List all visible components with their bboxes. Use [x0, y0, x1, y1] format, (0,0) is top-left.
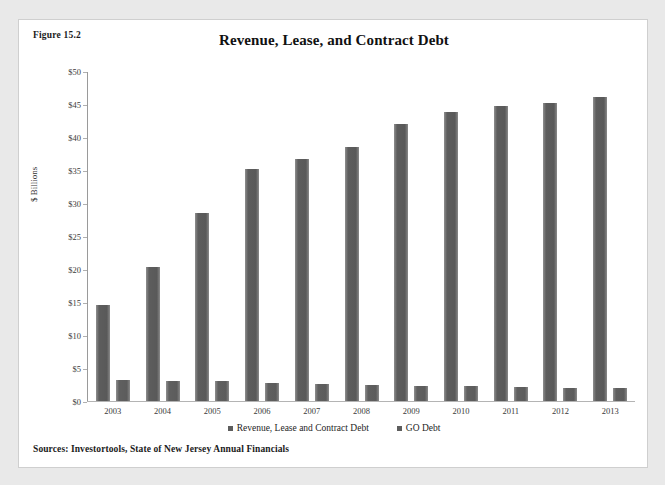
- bar-group: [337, 72, 387, 401]
- bar: [494, 106, 508, 401]
- bar: [265, 383, 279, 401]
- y-tick-mark: [83, 270, 87, 271]
- x-tick-label: 2010: [436, 406, 486, 416]
- y-tick-mark: [83, 171, 87, 172]
- bar-group: [436, 72, 486, 401]
- bar: [563, 388, 577, 401]
- bar: [444, 112, 458, 401]
- bar-group: [536, 72, 586, 401]
- x-tick-label: 2008: [337, 406, 387, 416]
- bar: [96, 305, 110, 401]
- bar: [543, 103, 557, 401]
- y-tick-mark: [83, 402, 87, 403]
- bar: [365, 385, 379, 401]
- y-tick-label: $30: [68, 199, 81, 209]
- bar-group: [287, 72, 337, 401]
- y-tick-mark: [83, 237, 87, 238]
- bar: [345, 147, 359, 401]
- x-tick-label: 2003: [88, 406, 138, 416]
- bar-group: [237, 72, 287, 401]
- x-tick-label: 2004: [138, 406, 188, 416]
- bar: [146, 267, 160, 401]
- x-tick-label: 2007: [287, 406, 337, 416]
- bar: [394, 124, 408, 401]
- y-tick-mark: [83, 72, 87, 73]
- chart-legend: Revenue, Lease and Contract DebtGO Debt: [19, 423, 649, 433]
- x-axis-tick-labels: 2003200420052006200720082009201020112012…: [88, 406, 635, 416]
- source-note: Sources: Investortools, State of New Jer…: [33, 444, 289, 454]
- bar: [245, 169, 259, 401]
- bar: [593, 97, 607, 401]
- y-tick-label: $15: [68, 298, 81, 308]
- bar: [464, 386, 478, 401]
- legend-swatch-icon: [397, 426, 402, 431]
- y-tick-label: $0: [73, 397, 82, 407]
- y-tick-mark: [83, 204, 87, 205]
- y-tick-label: $10: [68, 331, 81, 341]
- y-tick-label: $40: [68, 133, 81, 143]
- legend-label: Revenue, Lease and Contract Debt: [237, 423, 369, 433]
- y-tick-mark: [83, 105, 87, 106]
- bar-group: [88, 72, 138, 401]
- y-axis-label: $ Billions: [29, 188, 39, 202]
- legend-item[interactable]: GO Debt: [397, 423, 441, 433]
- bar: [613, 388, 627, 401]
- bar: [414, 386, 428, 401]
- y-tick-label: $50: [68, 67, 81, 77]
- y-tick-label: $25: [68, 232, 81, 242]
- y-tick-label: $35: [68, 166, 81, 176]
- bar: [166, 381, 180, 401]
- bar-group: [187, 72, 237, 401]
- x-tick-label: 2005: [187, 406, 237, 416]
- y-tick-label: $5: [73, 364, 82, 374]
- bar-group: [386, 72, 436, 401]
- y-tick-mark: [83, 303, 87, 304]
- page-canvas: Figure 15.2 Revenue, Lease, and Contract…: [0, 0, 665, 485]
- chart-plot-area: $ Billions $0$5$10$15$20$25$30$35$40$45$…: [19, 20, 649, 469]
- bar: [195, 213, 209, 401]
- legend-label: GO Debt: [406, 423, 441, 433]
- x-tick-label: 2012: [536, 406, 586, 416]
- bar-group: [138, 72, 188, 401]
- bar: [295, 159, 309, 401]
- y-tick-mark: [83, 138, 87, 139]
- bar-groups: [88, 72, 635, 401]
- legend-item[interactable]: Revenue, Lease and Contract Debt: [228, 423, 369, 433]
- axes: $0$5$10$15$20$25$30$35$40$45$50: [87, 72, 635, 402]
- x-axis-line: [87, 401, 635, 402]
- bar: [116, 380, 130, 401]
- figure-card: Figure 15.2 Revenue, Lease, and Contract…: [18, 19, 648, 468]
- bar: [215, 381, 229, 401]
- bar-group: [486, 72, 536, 401]
- x-tick-label: 2011: [486, 406, 536, 416]
- y-tick-mark: [83, 369, 87, 370]
- y-tick-label: $20: [68, 265, 81, 275]
- bar: [514, 387, 528, 401]
- x-tick-label: 2009: [386, 406, 436, 416]
- y-tick-mark: [83, 336, 87, 337]
- y-tick-label: $45: [68, 100, 81, 110]
- x-tick-label: 2013: [585, 406, 635, 416]
- bar-group: [585, 72, 635, 401]
- x-tick-label: 2006: [237, 406, 287, 416]
- legend-swatch-icon: [228, 426, 233, 431]
- bar: [315, 384, 329, 401]
